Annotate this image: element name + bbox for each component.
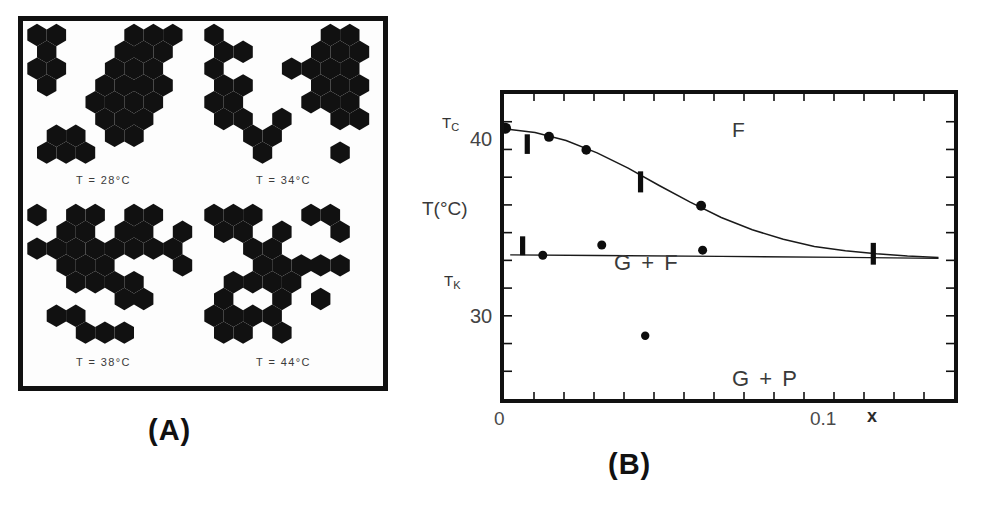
hexagon-cell <box>47 305 66 327</box>
hexagon-cell <box>330 141 349 163</box>
hexagon-cell <box>311 254 330 276</box>
hexagon-cell <box>233 41 252 63</box>
quadrant-caption-44c: T = 44°C <box>256 356 311 368</box>
region-label-g-plus-p: G + P <box>732 366 799 392</box>
data-point-circle <box>544 132 554 142</box>
tc-base: T <box>442 114 451 131</box>
panel-b-letter: (B) <box>608 448 651 481</box>
panel-a: T = 28°C T = 34°C T = 38°C T = 44°C <box>18 16 388 391</box>
y-axis-title: T(°C) <box>422 198 468 220</box>
y-axis-ticks <box>504 122 954 372</box>
data-point-bar <box>871 243 876 265</box>
data-point-circle <box>597 241 606 250</box>
figure-root: T = 28°C T = 34°C T = 38°C T = 44°C (A) … <box>0 0 986 509</box>
y-axis-annotation-tc: TC <box>442 114 459 133</box>
hexagon-cell <box>282 57 301 79</box>
x-axis-ticks <box>534 94 924 399</box>
y-tick-label-40: 40 <box>470 128 492 151</box>
quadrant-caption-38c: T = 38°C <box>76 356 131 368</box>
plot-canvas <box>504 94 954 399</box>
x-tick-label-0: 0 <box>494 408 505 430</box>
data-point-circle <box>696 201 706 211</box>
data-point-circle <box>581 145 591 155</box>
hexagon-cell <box>27 237 46 259</box>
region-label-f: F <box>732 118 745 142</box>
hexagon-cell <box>301 204 320 226</box>
hexagon-cell <box>27 204 46 226</box>
data-point-circle <box>504 123 511 134</box>
panel-b: F G + F G + P TC 40 T(°C) TK 30 0 0.1 x … <box>420 70 976 490</box>
data-point-bar <box>520 236 525 255</box>
quadrant-caption-28c: T = 28°C <box>76 174 131 186</box>
tk-base: T <box>444 272 453 289</box>
y-axis-annotation-tk: TK <box>444 272 461 291</box>
tk-subscript: K <box>453 279 460 291</box>
data-point-circle <box>698 246 707 255</box>
hexagon-cell <box>115 321 134 343</box>
hexagon-cell <box>311 288 330 310</box>
curve-tc <box>504 129 938 258</box>
data-point-error-bars <box>520 134 876 264</box>
hexagon-cell <box>95 321 114 343</box>
x-axis-title: x <box>867 406 877 427</box>
y-tick-label-30: 30 <box>470 305 492 328</box>
hexagon-cell <box>330 254 349 276</box>
x-tick-label-0-1: 0.1 <box>810 408 836 430</box>
plot-frame: F G + F G + P <box>500 90 958 403</box>
tc-subscript: C <box>451 121 459 133</box>
data-point-circle <box>538 251 547 260</box>
quadrant-caption-34c: T = 34°C <box>256 174 311 186</box>
data-point-bar <box>525 134 530 154</box>
region-label-g-plus-f: G + F <box>614 250 680 276</box>
data-point-circle <box>641 332 649 340</box>
data-point-bar <box>638 171 643 192</box>
panel-a-letter: (A) <box>148 414 191 447</box>
data-point-circles <box>504 123 707 340</box>
